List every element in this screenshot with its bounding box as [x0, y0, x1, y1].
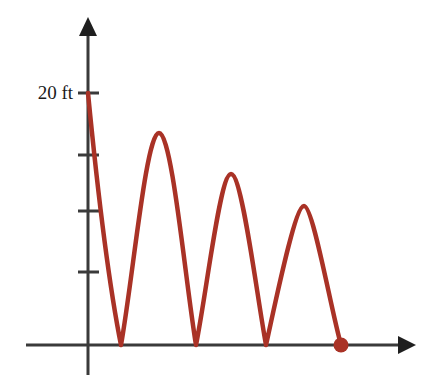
y-axis-arrowhead — [79, 17, 97, 36]
bouncing-ball-figure: 20 ft — [0, 0, 431, 388]
y-axis-tick-label-20ft: 20 ft — [38, 82, 74, 103]
plot-canvas: 20 ft — [0, 0, 431, 388]
final-rest-point-marker — [334, 338, 349, 353]
ball-trajectory-curve — [88, 93, 341, 345]
x-axis-arrowhead — [398, 336, 416, 354]
